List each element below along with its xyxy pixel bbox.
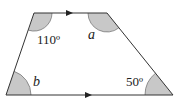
angle-label-bottom-left: b [33, 74, 40, 89]
top-side-arrow-icon [66, 10, 73, 16]
trapezium-svg: 110º a b 50º [0, 0, 182, 104]
trapezium-diagram: 110º a b 50º [0, 0, 182, 104]
angle-label-bottom-right: 50º [126, 74, 143, 89]
angle-label-top-right: a [88, 27, 95, 42]
angle-sector-top-left [29, 13, 53, 31]
bottom-side-arrow-icon [85, 92, 92, 98]
angle-label-top-left: 110º [37, 32, 60, 47]
angle-sector-bottom-right [145, 73, 173, 95]
